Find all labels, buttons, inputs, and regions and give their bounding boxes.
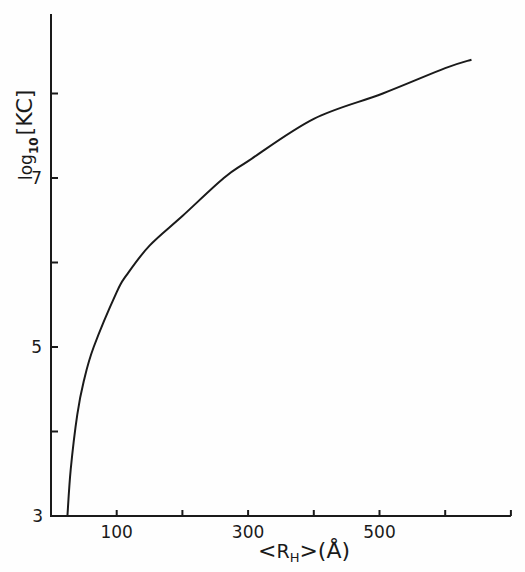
data-curve (67, 60, 471, 516)
y-tick-label: 5 (31, 337, 42, 357)
y-axis-label: log10[KC] (12, 90, 41, 180)
svg-text:<RH>(Å): <RH>(Å) (258, 537, 350, 565)
x-label-unit: (Å) (318, 537, 350, 563)
svg-text:log10[KC]: log10[KC] (12, 90, 41, 180)
x-label-sub: H (290, 550, 300, 565)
x-tick-label: 500 (363, 522, 395, 542)
tick-labels: 100300500357 (31, 168, 396, 542)
tick-marks (51, 94, 511, 517)
y-label-sub: 10 (27, 137, 41, 154)
chart-canvas: 100300500357 log10[KC] <RH>(Å) (0, 0, 525, 572)
y-label-log: log (16, 154, 36, 180)
x-axis-label: <RH>(Å) (258, 537, 350, 565)
axes (50, 14, 511, 517)
x-label-lt: < (258, 538, 276, 563)
x-label-r: R (276, 540, 289, 562)
x-label-gt: > (299, 538, 317, 563)
x-tick-label: 100 (100, 522, 132, 542)
y-tick-label: 3 (32, 506, 43, 526)
y-label-bracket: [KC] (12, 90, 37, 136)
